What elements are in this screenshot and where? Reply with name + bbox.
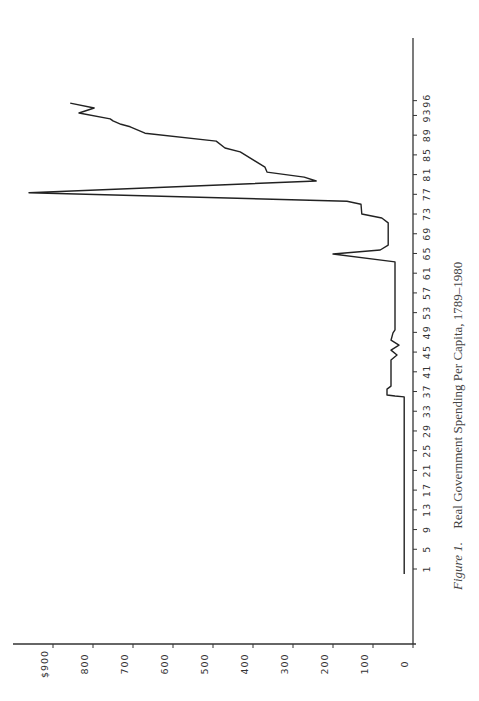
year-tick-label: 81 [421, 168, 432, 182]
value-tick-label: 700 [119, 653, 130, 674]
figure-caption: Figure 1. Real Government Spending Per C… [450, 262, 465, 591]
year-tick-label: 33 [421, 404, 432, 418]
year-tick-label: 69 [421, 227, 432, 241]
value-tick-label: 800 [79, 653, 90, 674]
year-tick-label: 53 [421, 306, 432, 320]
year-tick-label: 25 [421, 444, 432, 458]
year-tick-label: 5 [421, 546, 432, 553]
year-tick-label: 93 [421, 108, 432, 122]
year-tick-label: 29 [421, 424, 432, 438]
year-tick-label: 49 [421, 325, 432, 339]
caption-text: Real Government Spending Per Capita, 178… [450, 262, 465, 529]
year-tick-label: 73 [421, 207, 432, 221]
year-tick-label: 61 [421, 266, 432, 280]
value-tick-label: 400 [239, 653, 250, 674]
value-tick-label: 0 [399, 660, 410, 667]
caption-prefix: Figure 1. [450, 542, 465, 591]
value-tick-label: 500 [199, 653, 210, 674]
year-tick-label: 77 [421, 187, 432, 201]
year-tick-label: 96 [421, 94, 432, 108]
year-tick-label: 1 [421, 565, 432, 572]
year-tick-label: 57 [421, 286, 432, 300]
value-ticks: 0100200300400500600700800$900 [39, 644, 414, 678]
value-tick-label: 200 [319, 653, 330, 674]
year-ticks: 1591317212529333741454953576165697377818… [413, 94, 432, 573]
year-tick-label: 9 [421, 526, 432, 533]
year-tick-label: 65 [421, 246, 432, 260]
year-tick-label: 45 [421, 345, 432, 359]
chart: 1591317212529333741454953576165697377818… [0, 0, 479, 701]
year-tick-label: 41 [421, 365, 432, 379]
value-tick-label: 100 [359, 653, 370, 674]
series-line [29, 103, 404, 574]
value-tick-label: $900 [39, 650, 50, 678]
year-tick-label: 89 [421, 128, 432, 142]
year-tick-label: 21 [421, 463, 432, 477]
year-tick-label: 13 [421, 503, 432, 517]
year-tick-label: 85 [421, 148, 432, 162]
year-tick-label: 17 [421, 483, 432, 497]
axes [13, 38, 416, 644]
year-tick-label: 37 [421, 384, 432, 398]
value-tick-label: 300 [279, 653, 290, 674]
value-tick-label: 600 [159, 653, 170, 674]
